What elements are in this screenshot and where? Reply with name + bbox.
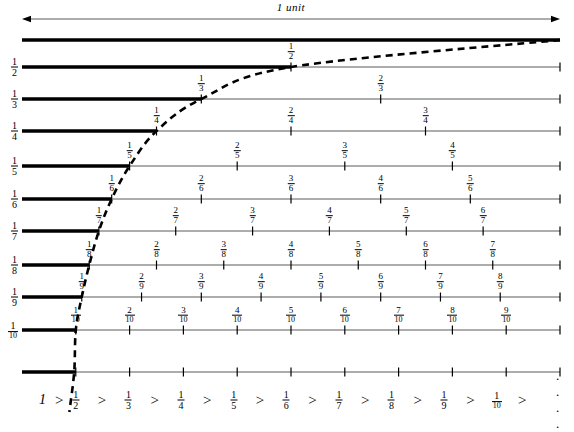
row-label-9: 19 (11, 287, 18, 308)
row-8-tick-label-5: 68 (422, 239, 429, 259)
row-8-tick-label-1: 28 (153, 239, 160, 259)
sequence-separator-0: > (55, 392, 63, 409)
row-10-tick-label-3: 410 (232, 305, 242, 324)
row-9-tick-label-6: 79 (437, 271, 444, 291)
sequence-separator-99: > (518, 392, 526, 409)
sequence-term-1: 12 (72, 390, 79, 411)
row-5-tick-label-3: 45 (449, 140, 456, 160)
row-10-tick-label-0: 110 (71, 305, 81, 324)
row-7-tick-label-2: 37 (249, 205, 256, 225)
sequence-separator-3: > (203, 392, 211, 409)
row-label-3: 13 (11, 89, 18, 110)
row-6-tick-label-3: 46 (377, 173, 384, 193)
row-5-tick-label-0: 15 (126, 140, 133, 160)
sequence-term-2: 13 (125, 390, 132, 411)
row-4-tick-label-1: 24 (288, 105, 295, 125)
row-label-10: 110 (8, 320, 18, 340)
row-6-tick-label-0: 16 (108, 173, 115, 193)
row-5-tick-label-2: 35 (342, 140, 349, 160)
row-5-tick-label-1: 25 (234, 140, 241, 160)
row-9-tick-label-7: 89 (497, 271, 504, 291)
sequence-term-7: 18 (388, 390, 395, 411)
row-10-tick-label-6: 710 (394, 305, 404, 324)
unit-annotation: 1 unit (277, 1, 305, 13)
row-4-tick-label-0: 14 (153, 105, 160, 125)
row-10-tick-label-7: 810 (447, 305, 457, 324)
row-10-tick-label-1: 210 (125, 305, 135, 324)
sequence-term-6: 17 (335, 390, 342, 411)
row-6-tick-label-1: 26 (198, 173, 205, 193)
row-9-tick-label-4: 59 (318, 271, 325, 291)
row-8-tick-label-4: 58 (355, 239, 362, 259)
sequence-ellipsis: . . . . (556, 368, 568, 432)
row-3-tick-label-1: 23 (377, 73, 384, 93)
row-7-tick-label-5: 67 (480, 205, 487, 225)
row-label-2: 12 (11, 57, 18, 78)
row-9-tick-label-1: 29 (138, 271, 145, 291)
row-8-tick-label-2: 38 (221, 239, 228, 259)
sequence-separator-7: > (414, 392, 422, 409)
sequence-term-9: 110 (492, 390, 502, 410)
row-9-tick-label-5: 69 (377, 271, 384, 291)
unit-arrow-head-right (551, 16, 560, 22)
row-7-tick-label-3: 47 (326, 205, 333, 225)
row-4-tick-label-2: 34 (422, 105, 429, 125)
sequence-separator-4: > (256, 392, 264, 409)
row-7-tick-label-0: 17 (96, 205, 103, 225)
sequence-separator-2: > (150, 392, 158, 409)
unit-arrow-head-left (22, 16, 31, 22)
row-10-tick-label-5: 610 (340, 305, 350, 324)
row-label-8: 18 (11, 255, 18, 276)
row-9-tick-label-0: 19 (79, 271, 86, 291)
row-7-tick-label-1: 27 (172, 205, 179, 225)
sequence-separator-1: > (98, 392, 106, 409)
harmonic-dashed-curve (69, 40, 560, 412)
sequence-separator-6: > (361, 392, 369, 409)
row-10-tick-label-8: 910 (501, 305, 511, 324)
row-7-tick-label-4: 57 (403, 205, 410, 225)
row-label-4: 14 (11, 121, 18, 142)
row-8-tick-label-3: 48 (288, 239, 295, 259)
row-label-6: 16 (11, 189, 18, 210)
row-6-tick-label-4: 56 (467, 173, 474, 193)
row-2-tick-label-0: 12 (288, 41, 295, 61)
sequence-term-4: 15 (230, 390, 237, 411)
row-9-tick-label-2: 39 (198, 271, 205, 291)
row-10-tick-label-4: 510 (286, 305, 296, 324)
row-3-tick-label-0: 13 (198, 73, 205, 93)
row-8-tick-label-6: 78 (490, 239, 497, 259)
sequence-term-3: 14 (178, 390, 185, 411)
sequence-separator-5: > (308, 392, 316, 409)
row-label-5: 15 (11, 156, 18, 177)
row-9-tick-label-3: 49 (258, 271, 265, 291)
sequence-term-8: 19 (441, 390, 448, 411)
row-6-tick-label-2: 36 (288, 173, 295, 193)
row-10-tick-label-2: 310 (178, 305, 188, 324)
bottom-sequence: 1>12>13>14>15>16>17>18>19>110>. . . . (0, 382, 574, 415)
row-8-tick-label-0: 18 (86, 239, 93, 259)
sequence-first-term: 1 (39, 392, 46, 408)
sequence-separator-8: > (466, 392, 474, 409)
sequence-term-5: 16 (283, 390, 290, 411)
row-label-7: 17 (11, 221, 18, 242)
